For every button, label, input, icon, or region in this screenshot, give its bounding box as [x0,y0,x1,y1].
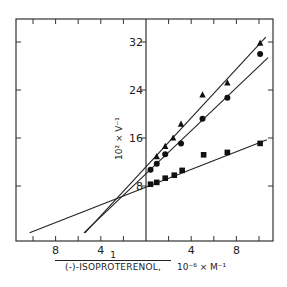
circles-fit-line [84,58,268,233]
square-marker [154,180,160,186]
square-marker [148,181,154,187]
triangle-marker [154,153,160,159]
square-marker [225,150,231,156]
axis-ticks [16,19,273,241]
circle-marker [148,167,154,173]
plot-frame [16,19,273,241]
x-label-fraction: 1 (-)-ISOPROTERENOL, [55,250,171,273]
x-label-denominator: (-)-ISOPROTERENOL, [55,260,171,273]
square-marker [171,172,177,178]
circle-marker [224,95,230,101]
circle-marker [178,140,184,146]
circle-marker [200,116,206,122]
square-marker [179,168,185,174]
triangle-marker [224,79,230,85]
x-label-units: 10⁻⁶ × M⁻¹ [177,262,226,272]
fit-lines [30,37,268,233]
circle-marker [257,51,263,57]
square-marker [257,141,263,147]
circle-marker [154,161,160,167]
y-tick-label: 32 [129,36,143,49]
triangle-marker [199,91,205,97]
triangle-marker [178,121,184,127]
y-tick-label: 24 [129,84,143,97]
triangles-fit-line [85,37,266,233]
circle-marker [162,151,168,157]
x-axis-label: 1 (-)-ISOPROTERENOL, 10⁻⁶ × M⁻¹ [55,250,285,282]
x-label-numerator: 1 [55,250,171,260]
square-marker [201,152,207,158]
data-markers [148,40,264,187]
chart: 84488162432 10² × V⁻¹ [0,0,287,287]
y-axis-label: 10² × V⁻¹ [114,117,124,160]
y-tick-label: 16 [129,132,143,145]
square-marker [162,175,168,181]
